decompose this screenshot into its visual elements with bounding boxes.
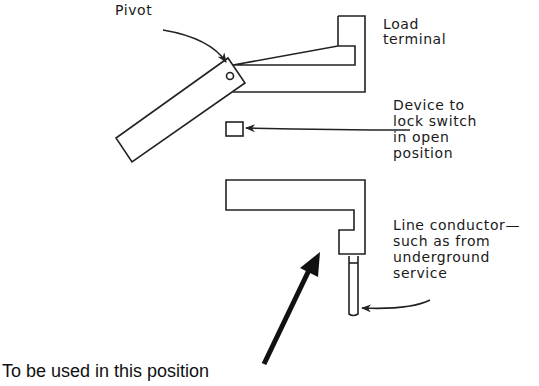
lock-device [226, 122, 243, 136]
lock-device-label-line1: Device to [393, 98, 465, 113]
line-terminal [226, 180, 365, 254]
lock-device-label-line2: lock switch [393, 114, 477, 129]
caption: To be used in this position [2, 361, 209, 382]
load-terminal-label-line1: Load [383, 17, 419, 32]
line-conductor-label-line4: service [393, 266, 447, 281]
lock-device-label-line4: position [393, 146, 453, 161]
line-conductor-label-line2: such as from [393, 234, 490, 249]
line-conductor-label-line3: underground [393, 250, 490, 265]
lock-arrow [246, 128, 410, 130]
switch-diagram: Pivot Load terminal Device to lock switc… [0, 0, 539, 386]
line-conductor-label-line1: Line conductor— [393, 218, 520, 233]
load-terminal-label-line2: terminal [383, 32, 446, 47]
pivoting-blade [116, 58, 245, 162]
line-conductor [349, 256, 358, 316]
pivot-label: Pivot [115, 3, 152, 18]
load-terminal [233, 16, 365, 92]
pivot-arrow [163, 30, 226, 62]
lock-device-label-line3: in open [393, 130, 449, 145]
conductor-arrow [362, 300, 430, 308]
diagram-drawing [0, 0, 539, 386]
